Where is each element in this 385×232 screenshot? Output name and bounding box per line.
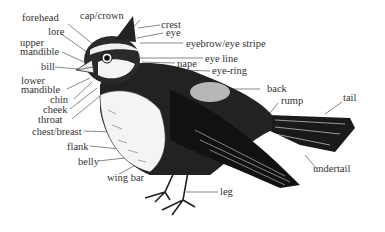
label-wing-bar: wing bar [107, 173, 144, 183]
label-eye-ring: eye-ring [212, 66, 247, 76]
label-eyebrow-eye-stripe: eyebrow/eye stripe [186, 39, 266, 49]
label-nape: nape [177, 59, 197, 69]
label-leg: leg [220, 187, 233, 197]
label-belly: belly [78, 157, 99, 167]
label-eye: eye [166, 28, 181, 38]
label-throat: throat [38, 115, 63, 125]
label-back: back [267, 84, 287, 94]
label-bill: bill [41, 62, 55, 72]
label-chest-breast: chest/breast [32, 127, 82, 137]
label-rump: rump [281, 96, 303, 106]
label-lore: lore [48, 27, 64, 37]
label-eye-line: eye line [205, 54, 238, 64]
label-undertail: undertail [313, 164, 350, 174]
label-flank: flank [67, 142, 89, 152]
label-tail: tail [343, 93, 356, 103]
label-forehead: forehead [22, 13, 59, 23]
label-cap-crown: cap/crown [80, 11, 124, 21]
label-upper-mandible-line2: mandible [20, 47, 59, 57]
